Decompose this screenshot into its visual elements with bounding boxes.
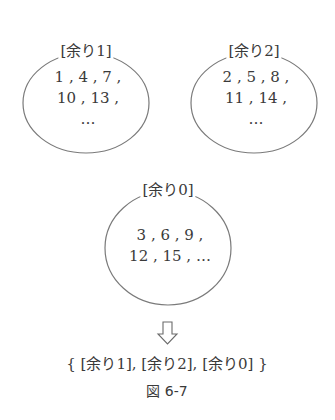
members-ellipsis: … [223, 109, 290, 130]
figure-caption: 図 6-7 [146, 380, 187, 400]
members-line: 3 , 6 , 9 , [129, 225, 211, 246]
quotient-set: { [余り1], [余り2], [余り0] } [66, 352, 267, 373]
set-members-remainder-0: 3 , 6 , 9 ,12 , 15 , … [129, 225, 211, 267]
set-members-remainder-2: 2 , 5 , 8 ,11 , 14 ,… [223, 67, 290, 130]
down-arrow-icon [158, 322, 177, 344]
set-label-remainder-0: [余り0] [140, 181, 195, 199]
members-line: 11 , 14 , [223, 88, 290, 109]
set-label-remainder-2: [余り2] [226, 42, 281, 60]
set-label-remainder-1: [余り1] [58, 42, 113, 60]
set-members-remainder-1: 1 , 4 , 7 ,10 , 13 ,… [55, 67, 122, 130]
members-line: 10 , 13 , [55, 88, 122, 109]
members-ellipsis: … [55, 109, 122, 130]
members-line: 1 , 4 , 7 , [55, 67, 122, 88]
members-line: 12 , 15 , … [129, 246, 211, 267]
members-line: 2 , 5 , 8 , [223, 67, 290, 88]
